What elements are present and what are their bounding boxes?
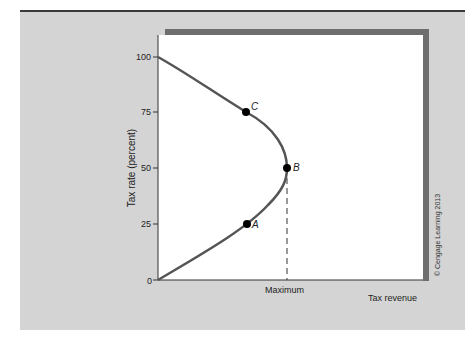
point-b-marker <box>283 164 291 172</box>
frame-shadow-top <box>165 29 429 35</box>
chart-plot <box>0 0 465 338</box>
point-b-label: B <box>293 162 300 173</box>
copyright-credit: © Cengage Learning 2013 <box>434 194 441 276</box>
point-c-marker <box>242 108 250 116</box>
y-tick-25: 25 <box>141 219 151 229</box>
point-a-marker <box>243 220 251 228</box>
point-c-label: C <box>251 101 258 112</box>
y-tick-0: 0 <box>147 276 152 286</box>
y-axis-title: Tax rate (percent) <box>126 129 137 207</box>
maximum-label: Maximum <box>265 285 304 295</box>
point-a-label: A <box>252 219 259 230</box>
x-axis-title: Tax revenue <box>368 293 417 303</box>
frame-shadow-right <box>423 29 429 281</box>
y-ticks <box>153 57 158 280</box>
y-tick-50: 50 <box>141 163 151 173</box>
y-tick-100: 100 <box>136 52 151 62</box>
plot-area <box>158 35 423 280</box>
y-tick-75: 75 <box>141 107 151 117</box>
